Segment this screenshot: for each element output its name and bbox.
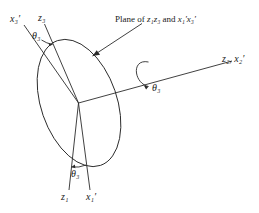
caption-prefix: Plane of	[115, 14, 147, 24]
caption-conjunction: and	[160, 14, 178, 24]
angle-label-theta3-lower: θ₃	[71, 169, 79, 179]
axis-label-z1: z₁	[61, 192, 68, 202]
x1prime-axis	[79, 103, 91, 190]
axis-label-x3-prime: x₃′	[10, 14, 20, 24]
angle-label-theta3-upper: θ₃	[32, 31, 40, 41]
axis-label-z2-x2-prime: z₂, x₂′	[222, 54, 244, 64]
theta3-upper-arc	[42, 40, 53, 46]
plane-caption: Plane of z₁z₃ and x₁′x₃′	[115, 15, 196, 24]
axis-label-z3: z₃	[38, 13, 45, 23]
caption-pointer-arrow	[93, 24, 143, 57]
caption-first-plane: z₁z₃	[147, 14, 160, 24]
z3-axis	[45, 24, 79, 103]
axis-label-x1-prime: x₁′	[86, 192, 96, 202]
angle-label-theta3-rotation: θ₃	[152, 83, 160, 93]
caption-second-plane: x₁′x₃′	[178, 14, 196, 24]
rotation-diagram-figure: x₃′ z₃ θ₃ Plane of z₁z₃ and x₁′x₃′ z₂, x…	[0, 0, 259, 213]
